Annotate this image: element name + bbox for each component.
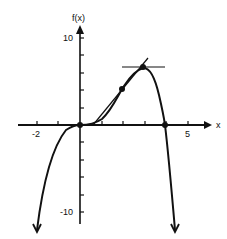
x-axis-label: x [216,120,221,130]
y-axis-label: f(x) [72,13,85,23]
function-curve [37,68,175,230]
x-tick-label-neg2: -2 [32,129,40,139]
y-axis-arrow-icon [76,25,84,34]
y-tick-label-neg10: -10 [60,207,73,217]
marked-points [77,64,168,128]
function-graph: f(x) x 10 -10 -2 5 [0,0,227,239]
x-tick-label-5: 5 [185,129,190,139]
y-tick-label-10: 10 [63,33,73,43]
x-axis-arrow-icon [204,121,212,129]
